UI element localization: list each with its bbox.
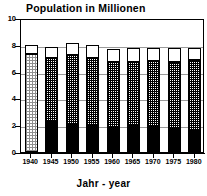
bar-segment-upper-1970 — [147, 48, 160, 61]
bar-segment-middle-1975 — [168, 62, 181, 129]
bar-segment-upper-1965 — [127, 48, 140, 61]
x-axis-label-1940: 1940 — [22, 158, 38, 165]
bar-segment-middle-1960 — [107, 62, 120, 128]
y-axis-label-4: 4 — [2, 96, 16, 104]
bar-segment-lower-1975 — [168, 129, 181, 152]
bar-segment-lower-1950 — [66, 125, 79, 152]
bar-segment-upper-1975 — [168, 48, 181, 61]
bar-segment-middle-1940 — [25, 54, 38, 152]
x-axis-label-1945: 1945 — [43, 158, 59, 165]
bar-segment-lower-1965 — [127, 126, 140, 152]
plot-area — [20, 19, 204, 153]
y-axis-label-10: 10 — [2, 15, 16, 23]
bar-1965[interactable] — [127, 48, 140, 152]
bar-segment-upper-1960 — [107, 49, 120, 62]
y-axis-label-6: 6 — [2, 69, 16, 77]
bar-segment-middle-1955 — [86, 58, 99, 126]
bar-1950[interactable] — [66, 43, 79, 152]
x-axis-label-1980: 1980 — [186, 158, 202, 165]
chart-title: Population in Millionen — [26, 2, 146, 14]
bar-1945[interactable] — [45, 47, 58, 152]
y-axis-label-8: 8 — [2, 42, 16, 50]
bar-segment-middle-1970 — [147, 61, 160, 127]
bar-segment-middle-1950 — [66, 55, 79, 125]
bar-segment-upper-1980 — [188, 48, 201, 60]
bar-segment-upper-1950 — [66, 43, 79, 55]
x-axis-label-1965: 1965 — [125, 158, 141, 165]
bar-1975[interactable] — [168, 48, 181, 152]
bar-segment-upper-1955 — [86, 45, 99, 58]
bar-1970[interactable] — [147, 47, 160, 152]
bar-segment-middle-1965 — [127, 62, 140, 126]
bar-segment-middle-1980 — [188, 60, 201, 131]
bar-segment-lower-1955 — [86, 126, 99, 152]
y-axis-label-0: 0 — [2, 149, 16, 157]
x-axis-label-1975: 1975 — [166, 158, 182, 165]
bar-1940[interactable] — [25, 45, 38, 152]
bar-segment-upper-1940 — [25, 45, 38, 54]
y-axis-line — [20, 19, 21, 154]
bar-segment-middle-1945 — [45, 58, 58, 122]
bar-1960[interactable] — [107, 49, 120, 152]
x-axis-label-1955: 1955 — [84, 158, 100, 165]
y-axis-label-2: 2 — [2, 122, 16, 130]
x-axis-label-1960: 1960 — [104, 158, 120, 165]
y-axis-tick-labels: 0246810 — [0, 0, 16, 196]
x-axis-title: Jahr - year — [0, 178, 207, 189]
x-axis-label-1970: 1970 — [145, 158, 161, 165]
bar-1955[interactable] — [86, 45, 99, 152]
bar-1980[interactable] — [188, 48, 201, 152]
bar-segment-lower-1945 — [45, 122, 58, 152]
bar-segment-lower-1980 — [188, 131, 201, 152]
bar-segment-lower-1960 — [107, 128, 120, 152]
x-axis-label-1950: 1950 — [63, 158, 79, 165]
bar-segment-lower-1970 — [147, 127, 160, 152]
bar-segment-upper-1945 — [45, 47, 58, 58]
chart-screenshot: Population in Millionen 0246810 19401945… — [0, 0, 207, 196]
